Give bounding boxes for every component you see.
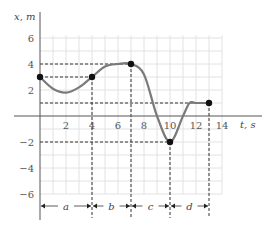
y-tick-label: 4 xyxy=(28,59,34,70)
x-tick-label: 10 xyxy=(164,120,177,131)
arrowhead-icon xyxy=(87,204,91,209)
key-point xyxy=(89,74,95,80)
y-axis-label: x, m xyxy=(14,11,35,22)
y-tick-label: 2 xyxy=(28,85,34,96)
axes xyxy=(14,12,262,220)
arrowhead-icon xyxy=(132,204,136,209)
x-axis-label: t, s xyxy=(240,119,256,130)
x-tick-label: 8 xyxy=(141,120,147,131)
x-tick-label: 2 xyxy=(63,120,69,131)
x-tick-label: 4 xyxy=(89,120,95,131)
interval-label-a: a xyxy=(63,201,69,212)
arrowhead-icon xyxy=(204,204,208,209)
x-tick-label: 12 xyxy=(190,120,203,131)
y-tick-label: −6 xyxy=(19,189,34,200)
key-point xyxy=(37,74,43,80)
x-tick-label: 6 xyxy=(115,120,121,131)
arrowhead-icon xyxy=(165,204,169,209)
key-point xyxy=(167,139,173,145)
interval-label-d: d xyxy=(186,201,192,212)
arrowhead-icon xyxy=(41,204,45,209)
arrowhead-icon xyxy=(126,204,130,209)
key-point xyxy=(206,100,212,106)
arrowhead-icon xyxy=(93,204,97,209)
arrowhead-icon xyxy=(171,204,175,209)
interval-markers: abcd xyxy=(41,201,208,212)
dashed-guides xyxy=(40,64,209,218)
y-tick-label: −2 xyxy=(19,137,34,148)
position-time-graph: 2468101214642−2−4−6 x, m t, s abcd xyxy=(0,0,266,233)
y-tick-label: 6 xyxy=(28,33,34,44)
interval-label-c: c xyxy=(148,201,154,212)
key-point xyxy=(128,61,134,67)
interval-label-b: b xyxy=(108,201,114,212)
x-tick-label: 14 xyxy=(216,120,229,131)
y-tick-label: −4 xyxy=(19,163,34,174)
